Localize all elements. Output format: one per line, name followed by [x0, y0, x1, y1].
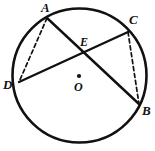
point-label-a: A [41, 1, 50, 14]
chord-ab-solid [47, 18, 139, 104]
point-label-b: B [142, 104, 151, 117]
circle-chords-figure: A C E D O B [0, 0, 155, 151]
center-dot-icon [77, 74, 81, 78]
chord-dc-solid [19, 32, 128, 82]
point-label-e: E [80, 36, 88, 48]
point-label-d: D [3, 78, 12, 91]
point-label-c: C [129, 13, 138, 26]
point-label-o: O [74, 81, 83, 93]
